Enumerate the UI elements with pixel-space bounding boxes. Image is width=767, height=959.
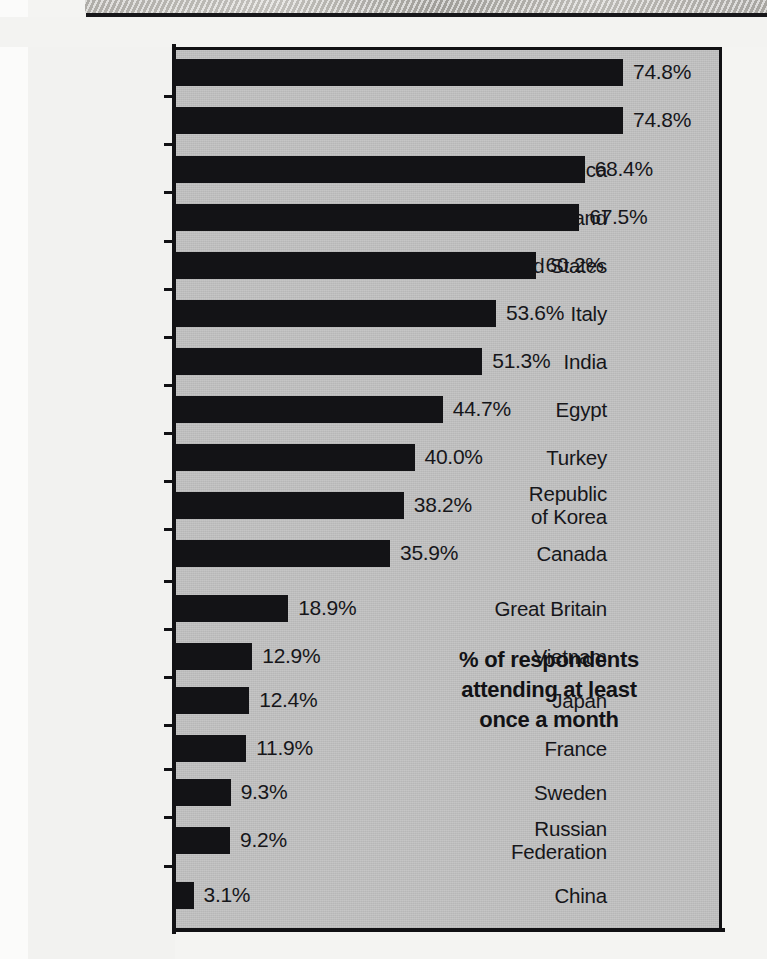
bar-value-label: 9.2% xyxy=(240,826,287,853)
top-photo-band xyxy=(85,0,767,13)
bar xyxy=(175,827,230,854)
bar-value-label: 60.2% xyxy=(546,251,604,278)
category-label: Great Britain xyxy=(407,597,607,620)
bar-value-label: 67.5% xyxy=(589,203,647,230)
bar-value-label: 74.8% xyxy=(633,106,691,133)
category-label: China xyxy=(407,884,607,907)
bar xyxy=(175,156,585,183)
axis-tick xyxy=(164,143,175,146)
bar xyxy=(175,882,194,909)
bar-value-label: 35.9% xyxy=(400,539,458,566)
bar-value-label: 12.9% xyxy=(262,642,320,669)
upper-white-space xyxy=(0,17,767,47)
axis-tick xyxy=(164,724,175,727)
bar xyxy=(175,252,536,279)
axis-tick xyxy=(164,95,175,98)
bar xyxy=(175,396,443,423)
x-axis-baseline xyxy=(172,928,725,932)
axis-tick xyxy=(164,628,175,631)
bar xyxy=(175,643,252,670)
category-label: France xyxy=(407,737,607,760)
bar-value-label: 3.1% xyxy=(204,881,251,908)
bar xyxy=(175,107,623,134)
page-background xyxy=(28,17,175,959)
bar-value-label: 18.9% xyxy=(298,594,356,621)
bar-value-label: 53.6% xyxy=(506,299,564,326)
category-label: Sweden xyxy=(407,781,607,804)
axis-tick xyxy=(164,432,175,435)
bar xyxy=(175,348,482,375)
bar xyxy=(175,59,623,86)
axis-tick xyxy=(164,288,175,291)
axis-tick xyxy=(164,240,175,243)
bar xyxy=(175,735,246,762)
bar-value-label: 40.0% xyxy=(425,443,483,470)
bar xyxy=(175,595,288,622)
bar-value-label: 74.8% xyxy=(633,58,691,85)
axis-tick xyxy=(164,865,175,868)
bar xyxy=(175,204,579,231)
bar-value-label: 11.9% xyxy=(256,734,313,761)
page-left-margin xyxy=(0,0,28,959)
axis-tick xyxy=(164,676,175,679)
bar xyxy=(175,687,249,714)
chart-annotation: % of respondents attending at least once… xyxy=(404,645,694,735)
bar xyxy=(175,779,231,806)
bar-value-label: 9.3% xyxy=(241,778,288,805)
category-label: Russian Federation xyxy=(407,817,607,863)
axis-tick xyxy=(164,816,175,819)
bar-value-label: 68.4% xyxy=(595,155,653,182)
bar xyxy=(175,492,404,519)
axis-tick xyxy=(164,384,175,387)
axis-tick xyxy=(164,768,175,771)
bar xyxy=(175,300,496,327)
axis-tick xyxy=(164,528,175,531)
bar xyxy=(175,540,390,567)
bar-value-label: 44.7% xyxy=(453,395,511,422)
bar-value-label: 51.3% xyxy=(492,347,550,374)
axis-tick xyxy=(164,336,175,339)
bar xyxy=(175,444,415,471)
bar-value-label: 38.2% xyxy=(414,491,472,518)
axis-tick xyxy=(164,480,175,483)
axis-tick xyxy=(164,191,175,194)
bar-value-label: 12.4% xyxy=(259,686,317,713)
axis-tick xyxy=(164,580,175,583)
chart-page: Brazil74.8%Mexico74.8%South Africa68.4%I… xyxy=(0,0,767,959)
